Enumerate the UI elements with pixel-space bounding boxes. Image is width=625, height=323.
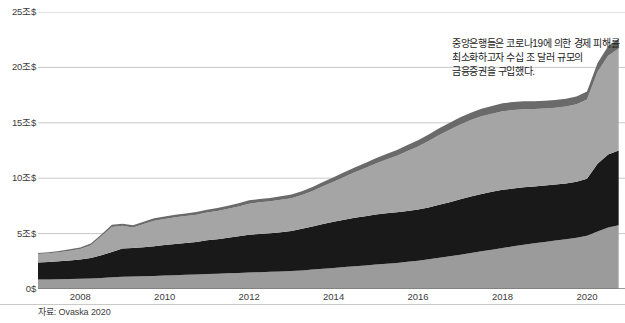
stacked-area-chart: 0$5조$10조$15조$20조$25조$ 200820102012201420… [0, 0, 625, 323]
x-tick-label: 2016 [407, 291, 428, 302]
x-tick-label: 2010 [154, 291, 175, 302]
y-tick-label: 5조$ [2, 229, 36, 239]
annotation-text: 중앙은행들은 코로나19에 의한 경제 피해를 최소화하고자 수십 조 달러 규… [452, 37, 620, 80]
y-tick-label: 20조$ [2, 62, 36, 72]
x-tick-label: 2018 [492, 291, 513, 302]
x-tick-label: 2020 [576, 291, 597, 302]
y-tick-label: 15조$ [2, 118, 36, 128]
source-note: 자료: Ovaska 2020 [38, 307, 111, 318]
footer-divider [0, 304, 625, 305]
y-tick-label: 10조$ [2, 173, 36, 183]
x-tick-label: 2014 [323, 291, 344, 302]
y-axis: 0$5조$10조$15조$20조$25조$ [0, 0, 36, 323]
y-tick-label: 25조$ [2, 7, 36, 17]
x-tick-label: 2008 [70, 291, 91, 302]
x-tick-label: 2012 [239, 291, 260, 302]
y-tick-label: 0$ [2, 284, 36, 294]
